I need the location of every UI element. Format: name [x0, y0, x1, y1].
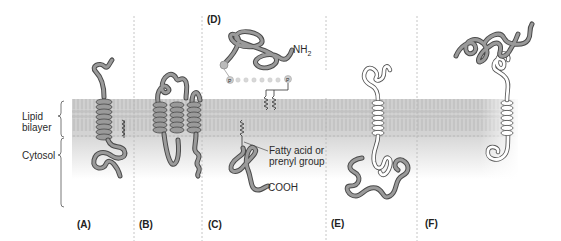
phosphate-label-right: P	[286, 75, 289, 86]
nh2-text: NH	[293, 44, 307, 55]
panel-label-c: (C)	[208, 219, 222, 230]
fatty-acid-line1: Fatty acid or	[269, 145, 325, 156]
panel-label-b: (B)	[139, 219, 153, 230]
nh2-subscript: 2	[307, 50, 311, 57]
panel-label-a: (A)	[77, 219, 91, 230]
figure-canvas: Lipid bilayer Cytosol NH2 P P Fatty acid…	[0, 0, 561, 241]
cytosol-brace	[58, 138, 64, 207]
fatty-acid-label: Fatty acid or prenyl group	[269, 145, 325, 167]
lipid-label-line2: bilayer	[22, 122, 51, 133]
lipid-bilayer	[72, 99, 518, 137]
panel-label-e: (E)	[331, 218, 344, 229]
phosphate-label-left: P	[228, 76, 231, 87]
panel-d-protein	[220, 32, 292, 110]
panel-label-f: (F)	[425, 218, 438, 229]
nh2-label: NH2	[293, 44, 311, 59]
panel-label-d: (D)	[207, 14, 221, 25]
cytosol-label: Cytosol	[22, 150, 55, 161]
diagram-graphics	[0, 0, 561, 241]
bilayer-brace	[58, 101, 64, 137]
gpi-sugar-ball	[220, 61, 228, 69]
lipid-bilayer-label: Lipid bilayer	[22, 111, 51, 133]
lipid-label-line1: Lipid	[22, 111, 51, 122]
fatty-acid-line2: prenyl group	[269, 156, 325, 167]
cooh-label: COOH	[268, 182, 298, 193]
